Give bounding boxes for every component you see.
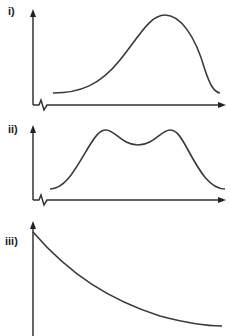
graph-i (30, 9, 226, 110)
curve-i (53, 15, 220, 93)
diagram-canvas (0, 0, 231, 336)
y-axis-arrow-iii-icon (30, 221, 36, 229)
x-axis-with-break-i (33, 100, 220, 110)
x-axis-arrow-i-icon (218, 102, 226, 108)
y-axis-arrow-ii-icon (30, 125, 36, 133)
graph-ii (30, 125, 226, 205)
x-axis-with-break-ii (33, 195, 220, 205)
curve-iii (33, 232, 222, 326)
curve-ii (50, 130, 225, 189)
x-axis-arrow-ii-icon (218, 197, 226, 203)
y-axis-arrow-i-icon (30, 9, 36, 17)
graph-iii (30, 221, 222, 336)
